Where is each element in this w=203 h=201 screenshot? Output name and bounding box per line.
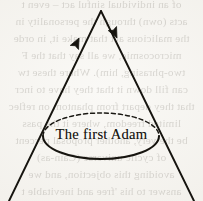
left-arrowhead-icon	[70, 36, 83, 49]
cone-left-side-line	[9, 11, 101, 201]
cone-base-label: The first Adam	[0, 126, 203, 143]
cone-diagram-figure: of an individual sinful act – even t act…	[0, 0, 203, 201]
cone-right-side-line	[101, 11, 194, 201]
cone-drawing	[0, 0, 203, 201]
